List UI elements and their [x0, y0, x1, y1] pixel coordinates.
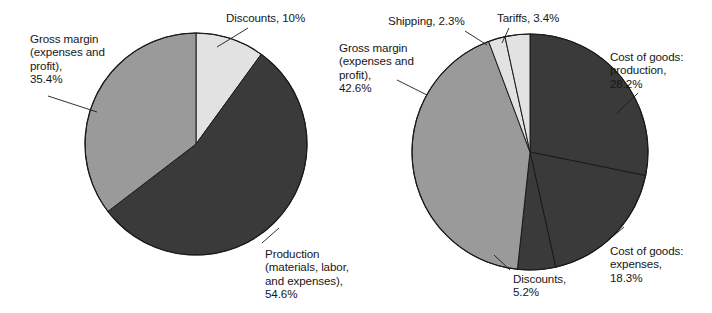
leader-line: [465, 31, 487, 45]
slice-label: Discounts, 5.2%: [513, 272, 566, 299]
slice-label: Shipping, 2.3%: [388, 14, 465, 27]
slice-label: Cost of goods: production, 28.2%: [610, 50, 683, 90]
left-pie-slices: [85, 33, 307, 255]
slice-label: Discounts, 10%: [226, 11, 305, 24]
slice-label: Gross margin (expenses and profit), 35.4…: [30, 32, 105, 86]
leader-line: [48, 96, 97, 112]
slice-label: Gross margin (expenses and profit), 42.6…: [339, 41, 414, 95]
slice-label: Production (materials, labor, and expens…: [265, 247, 349, 301]
pie-charts-figure: Discounts, 10%Gross margin (expenses and…: [0, 0, 712, 313]
slice-label: Tariffs, 3.4%: [497, 11, 559, 24]
slice-label: Cost of goods: expenses, 18.3%: [610, 244, 683, 284]
